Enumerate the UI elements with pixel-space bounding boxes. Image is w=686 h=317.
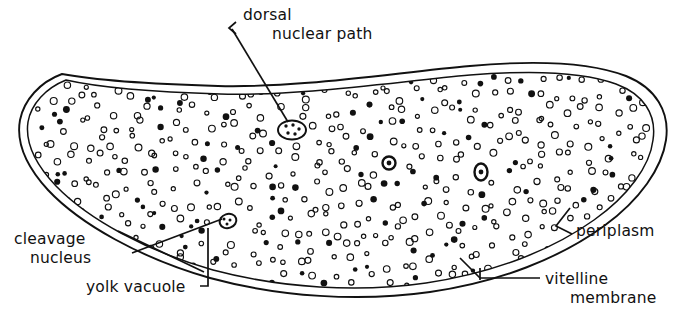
yolk-granule <box>127 58 132 63</box>
yolk-granule <box>20 188 26 194</box>
yolk-granule <box>28 294 33 299</box>
yolk-granule <box>638 273 644 279</box>
egg-diagram: dorsal nuclear path cleavage nucleus yol… <box>0 0 686 317</box>
yolk-granule <box>223 113 230 120</box>
yolk-granule <box>395 181 400 186</box>
yolk-granule <box>51 213 57 219</box>
yolk-granule <box>203 289 207 293</box>
yolk-granule <box>270 196 275 201</box>
yolk-granule <box>27 75 34 82</box>
yolk-granule <box>537 296 544 303</box>
yolk-granule <box>567 76 571 80</box>
yolk-granule <box>413 275 418 280</box>
yolk-granule <box>610 172 616 178</box>
yolk-granule <box>609 156 614 161</box>
label-yolk-vacuole: yolk vacuole <box>86 278 186 296</box>
yolk-granule <box>72 62 77 67</box>
yolk-granule <box>152 96 156 100</box>
yolk-granule <box>108 73 113 78</box>
yolk-granule <box>157 124 163 130</box>
yolk-granule <box>183 245 188 250</box>
yolk-granule <box>191 61 195 65</box>
yolk-granule <box>16 170 21 175</box>
yolk-granule <box>278 61 282 65</box>
yolk-granule <box>318 62 325 69</box>
yolk-granule <box>634 260 640 266</box>
yolk-granule <box>295 239 300 244</box>
yolk-granule <box>381 180 388 187</box>
yolk-granule <box>523 189 528 194</box>
yolk-granule <box>313 73 319 79</box>
yolk-granule <box>96 296 101 301</box>
yolk-granule <box>37 271 44 278</box>
yolk-granule <box>102 263 109 270</box>
yolk-granule <box>459 221 465 227</box>
yolk-granule <box>145 97 151 103</box>
yolk-granule <box>370 196 376 202</box>
yolk-granule <box>38 297 42 301</box>
yolk-granule <box>160 63 167 70</box>
yolk-granule <box>200 156 207 163</box>
yolk-granule <box>177 100 183 106</box>
yolk-granule <box>635 242 641 248</box>
yolk-granule <box>466 135 472 141</box>
yolk-granule <box>554 290 560 296</box>
yolk-granule <box>204 190 208 194</box>
yolk-granule <box>308 296 314 302</box>
yolk-granule <box>54 179 60 185</box>
yolk-granule <box>484 294 489 299</box>
yolk-granule <box>158 75 165 82</box>
yolk-granule <box>118 249 125 256</box>
label-vitelline-line1: vitelline <box>545 270 608 288</box>
yolk-granule <box>568 257 572 261</box>
yolk-granule <box>48 274 54 280</box>
yolk-granule <box>99 215 104 220</box>
yolk-granule <box>205 141 210 146</box>
yolk-granule <box>381 67 385 71</box>
yolk-granule <box>491 74 497 80</box>
yolk-granule <box>48 66 55 73</box>
yolk-granule <box>21 276 27 282</box>
yolk-granule <box>529 279 533 283</box>
label-cleavage-line1: cleavage <box>14 230 86 248</box>
yolk-granule <box>30 223 35 228</box>
yolk-granule <box>321 280 328 287</box>
yolk-granule <box>213 256 219 262</box>
yolk-granule <box>52 112 57 117</box>
label-dorsal-line1: dorsal <box>243 6 292 24</box>
yolk-granule <box>189 224 193 228</box>
yolk-granule <box>170 69 174 73</box>
yolk-granule <box>411 247 417 253</box>
yolk-granule <box>496 296 502 302</box>
yolk-granule <box>108 265 113 270</box>
yolk-granule <box>280 295 284 299</box>
yolk-granule <box>97 246 102 251</box>
yolk-granule <box>353 145 359 151</box>
yolk-granule <box>430 253 435 258</box>
yolk-granule <box>32 194 36 198</box>
yolk-granule <box>63 106 70 113</box>
yolk-granule <box>281 73 286 78</box>
yolk-granule <box>534 270 539 275</box>
yolk-granule <box>590 243 594 247</box>
yolk-granule <box>513 160 518 165</box>
yolk-granule <box>507 168 512 173</box>
yolk-granule <box>306 58 312 64</box>
yolk-granule <box>112 67 119 74</box>
yolk-granule <box>367 133 374 140</box>
yolk-granule <box>420 97 424 101</box>
yolk-granule <box>300 271 305 276</box>
yolk-granule <box>108 271 113 276</box>
yolk-granule <box>375 58 382 65</box>
yolk-granule <box>523 297 530 304</box>
yolk-granule <box>457 100 462 105</box>
yolk-granule <box>38 60 42 64</box>
yolk-granule <box>152 211 156 215</box>
yolk-granule <box>399 118 405 124</box>
yolk-granule <box>399 67 404 72</box>
yolk-granule <box>594 62 598 66</box>
yolk-granule <box>51 289 55 293</box>
yolk-granule <box>102 60 108 66</box>
yolk-granule <box>528 90 535 97</box>
yolk-granule <box>365 265 369 269</box>
